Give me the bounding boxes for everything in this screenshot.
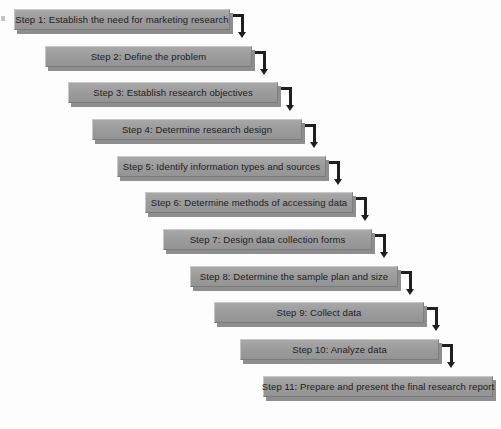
connector-vertical-segment bbox=[263, 51, 266, 69]
connector-vertical-segment bbox=[241, 14, 244, 32]
step-label-9: Step 9: Collect data bbox=[270, 308, 369, 318]
flowchart-canvas: Step 1: Establish the need for marketing… bbox=[0, 0, 501, 429]
step-box-5[interactable]: Step 5: Identify information types and s… bbox=[117, 156, 326, 177]
connector-vertical-segment bbox=[435, 307, 438, 325]
arrowhead-down-icon bbox=[447, 362, 455, 368]
arrowhead-down-icon bbox=[406, 289, 414, 295]
step-box-8[interactable]: Step 8: Determine the sample plan and si… bbox=[190, 266, 398, 287]
arrowhead-down-icon bbox=[238, 32, 246, 38]
step-label-3: Step 3: Establish research objectives bbox=[86, 88, 259, 98]
step-box-11[interactable]: Step 11: Prepare and present the final r… bbox=[263, 376, 493, 397]
connector-vertical-segment bbox=[337, 161, 340, 179]
step-label-5: Step 5: Identify information types and s… bbox=[116, 162, 327, 172]
arrowhead-down-icon bbox=[286, 105, 294, 111]
page-edge-artifact bbox=[1, 16, 5, 21]
step-box-3[interactable]: Step 3: Establish research objectives bbox=[68, 82, 278, 103]
arrowhead-down-icon bbox=[380, 252, 388, 258]
connector-vertical-segment bbox=[364, 197, 367, 215]
step-box-10[interactable]: Step 10: Analyze data bbox=[240, 339, 439, 360]
step-box-9[interactable]: Step 9: Collect data bbox=[214, 302, 424, 323]
step-label-4: Step 4: Determine research design bbox=[115, 125, 279, 135]
step-box-7[interactable]: Step 7: Design data collection forms bbox=[163, 229, 372, 250]
step-box-4[interactable]: Step 4: Determine research design bbox=[92, 119, 302, 140]
step-box-6[interactable]: Step 6: Determine methods of accessing d… bbox=[145, 192, 353, 213]
connector-vertical-segment bbox=[383, 234, 386, 252]
arrowhead-down-icon bbox=[432, 325, 440, 331]
connector-vertical-segment bbox=[313, 124, 316, 142]
arrowhead-down-icon bbox=[260, 69, 268, 75]
connector-vertical-segment bbox=[450, 344, 453, 362]
arrowhead-down-icon bbox=[310, 142, 318, 148]
step-label-7: Step 7: Design data collection forms bbox=[183, 235, 353, 245]
connector-vertical-segment bbox=[289, 87, 292, 105]
step-label-8: Step 8: Determine the sample plan and si… bbox=[193, 272, 396, 282]
step-label-1: Step 1: Establish the need for marketing… bbox=[8, 15, 236, 25]
arrowhead-down-icon bbox=[361, 215, 369, 221]
step-label-6: Step 6: Determine methods of accessing d… bbox=[144, 198, 355, 208]
step-label-10: Step 10: Analyze data bbox=[285, 345, 394, 355]
arrowhead-down-icon bbox=[334, 179, 342, 185]
connector-vertical-segment bbox=[409, 271, 412, 289]
step-box-2[interactable]: Step 2: Define the problem bbox=[45, 46, 252, 67]
step-label-2: Step 2: Define the problem bbox=[84, 52, 214, 62]
step-label-11: Step 11: Prepare and present the final r… bbox=[255, 382, 501, 392]
step-box-1[interactable]: Step 1: Establish the need for marketing… bbox=[14, 9, 230, 30]
